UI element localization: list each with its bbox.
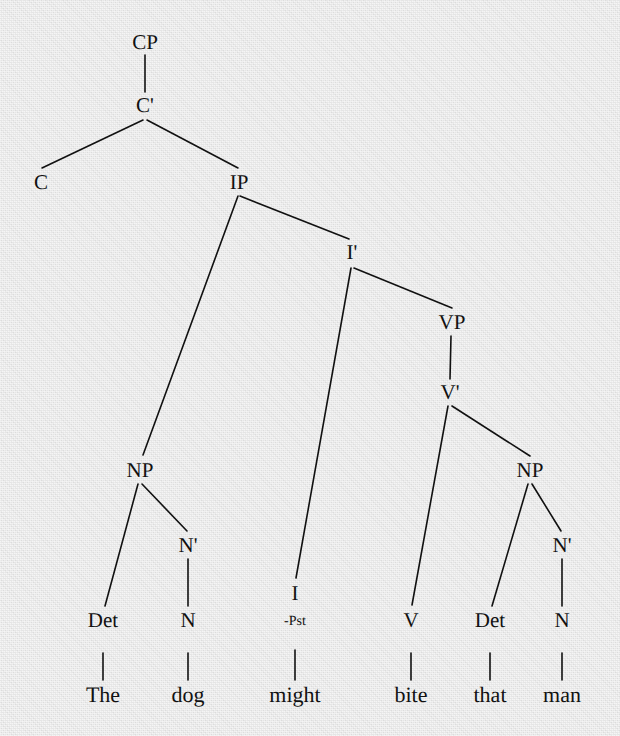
terminal-word-w4: bite (395, 684, 428, 706)
terminal-word-w3: might (269, 684, 320, 706)
tree-node-ifeat: -Pst (284, 615, 306, 629)
terminal-word-w2: dog (172, 684, 205, 706)
tree-node-n1: N (180, 610, 195, 631)
tree-node-ibar: I' (347, 242, 358, 263)
tree-node-ip: IP (230, 172, 249, 193)
tree-node-nbar2: N' (553, 535, 572, 556)
tree-branch-ibar-to-i (296, 268, 351, 578)
tree-branch-ibar-to-vp (354, 268, 452, 308)
terminal-word-w1: The (86, 684, 120, 706)
tree-branch-np2-to-det2 (492, 484, 528, 606)
tree-branch-ip-to-np1 (143, 196, 238, 455)
tree-branch-vbar-to-v (412, 406, 448, 605)
tree-node-i: I (292, 583, 299, 604)
tree-branch-np2-to-nbar2 (532, 484, 561, 531)
terminal-word-w5: that (474, 684, 507, 706)
terminal-word-w6: man (543, 684, 581, 706)
tree-node-cbar: C' (136, 95, 154, 116)
tree-branch-cbar-to-c (42, 120, 143, 168)
tree-node-n2: N (554, 610, 569, 631)
tree-node-np2: NP (517, 460, 544, 481)
tree-node-cp: CP (132, 32, 158, 53)
tree-node-vp: VP (439, 312, 466, 333)
tree-node-det1: Det (88, 610, 118, 631)
tree-branch-cbar-to-ip (147, 120, 238, 168)
tree-branch-ip-to-ibar (240, 196, 349, 239)
syntax-tree-figure: CPC'CIPI'VPV'NPNPN'N'DetNI-PstVDetNThedo… (0, 0, 620, 736)
tree-node-v: V (403, 610, 418, 631)
tree-node-nbar1: N' (179, 535, 198, 556)
tree-node-vbar: V' (441, 382, 460, 403)
tree-branch-vbar-to-np2 (452, 406, 530, 456)
tree-branch-np1-to-nbar1 (142, 484, 187, 531)
tree-node-c: C (34, 172, 48, 193)
tree-node-np1: NP (127, 460, 154, 481)
tree-node-det2: Det (475, 610, 505, 631)
tree-branch-vp-to-vbar (450, 336, 451, 379)
tree-branch-np1-to-det1 (105, 484, 138, 606)
